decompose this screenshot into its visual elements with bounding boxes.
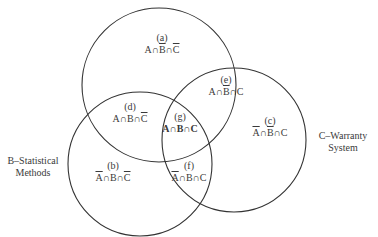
intersection-symbol: ∩	[152, 44, 159, 55]
set-symbol: B	[110, 172, 117, 183]
region-tag: (b)	[83, 160, 143, 172]
complement-set-symbol: A	[171, 172, 178, 183]
region-f-label: (f) A∩B∩C	[159, 160, 219, 184]
set-b-label: B–Statistical Methods	[2, 155, 64, 179]
complement-set-symbol: C	[173, 44, 180, 55]
set-symbol: A	[112, 113, 119, 124]
set-c-label-line2: System	[310, 142, 376, 154]
intersection-symbol: ∩	[216, 86, 223, 97]
intersection-symbol: ∩	[134, 113, 141, 124]
region-c-label: (c) A∩B∩C	[240, 115, 300, 139]
region-expression: A∩B∩C	[196, 86, 256, 98]
set-symbol: C	[191, 123, 198, 134]
intersection-symbol: ∩	[179, 172, 186, 183]
set-symbol: A	[208, 86, 215, 97]
set-symbol: C	[200, 172, 207, 183]
complement-set-symbol: A	[252, 127, 259, 138]
set-symbol: B	[186, 172, 193, 183]
region-g-label: (g) A∩B∩C	[150, 111, 210, 135]
region-a-label: (a) A∩B∩C	[132, 32, 192, 56]
complement-set-symbol: B	[267, 127, 274, 138]
region-tag: (g)	[150, 111, 210, 123]
set-symbol: C	[281, 127, 288, 138]
region-tag: (e)	[196, 74, 256, 86]
complement-set-symbol: C	[124, 172, 131, 183]
intersection-symbol: ∩	[193, 172, 200, 183]
region-b-label: (b) A∩B∩C	[83, 160, 143, 184]
set-b-label-line2: Methods	[2, 167, 64, 179]
intersection-symbol: ∩	[230, 86, 237, 97]
intersection-symbol: ∩	[169, 123, 176, 134]
complement-set-symbol: C	[141, 113, 148, 124]
region-e-label: (e) A∩B∩C	[196, 74, 256, 98]
region-expression: A∩B∩C	[132, 44, 192, 56]
intersection-symbol: ∩	[274, 127, 281, 138]
set-b-label-line1: B–Statistical	[2, 155, 64, 167]
region-tag: (a)	[132, 32, 192, 44]
set-symbol: B	[127, 113, 134, 124]
set-symbol: A	[144, 44, 151, 55]
complement-set-symbol: B	[223, 86, 230, 97]
region-expression: A∩B∩C	[150, 123, 210, 135]
complement-set-symbol: A	[95, 172, 102, 183]
set-c-label-line1: C–Warranty	[310, 130, 376, 142]
intersection-symbol: ∩	[117, 172, 124, 183]
intersection-symbol: ∩	[120, 113, 127, 124]
region-expression: A∩B∩C	[240, 127, 300, 139]
set-c-label: C–Warranty System	[310, 130, 376, 154]
intersection-symbol: ∩	[260, 127, 267, 138]
intersection-symbol: ∩	[166, 44, 173, 55]
region-tag: (c)	[240, 115, 300, 127]
region-tag: (f)	[159, 160, 219, 172]
complement-set-symbol: B	[159, 44, 166, 55]
region-expression: A∩B∩C	[83, 172, 143, 184]
region-expression: A∩B∩C	[159, 172, 219, 184]
intersection-symbol: ∩	[103, 172, 110, 183]
set-symbol: C	[237, 86, 244, 97]
intersection-symbol: ∩	[183, 123, 190, 134]
